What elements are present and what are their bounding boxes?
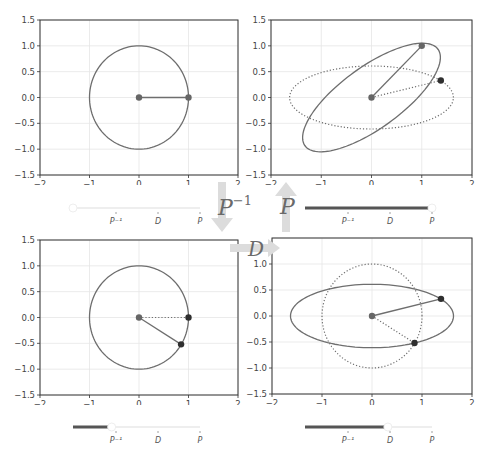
vector-line [372, 299, 441, 316]
data-point [411, 340, 417, 346]
y-tick-label: −1.0 [245, 144, 266, 154]
plot-top-left: −2−10121.51.00.50.0−0.5−1.0−1.5 [0, 0, 244, 185]
y-tick-label: −1.5 [14, 390, 35, 400]
data-point [185, 94, 191, 100]
y-tick-label: −1.0 [246, 363, 267, 373]
plot-svg: −2−10121.51.00.50.0−0.5−1.0−1.5 [0, 220, 244, 405]
slider-handle[interactable] [384, 423, 392, 431]
data-point [185, 314, 191, 320]
x-tick-label: 2 [235, 399, 240, 405]
x-tick-label: 1 [186, 179, 191, 185]
slider-stop-label: D [155, 436, 161, 445]
slider-stop-label: P [430, 436, 435, 445]
x-tick-label: −2 [34, 399, 47, 405]
x-tick-label: 0 [369, 398, 374, 405]
operator-d-label: D [248, 237, 264, 261]
y-tick-label: 0.0 [21, 313, 35, 323]
y-tick-label: 0.0 [21, 93, 35, 103]
slider-stop-label: P⁻¹ [110, 217, 122, 226]
x-tick-label: −1 [83, 179, 96, 185]
slider-stop-label: P [430, 217, 435, 226]
data-point [178, 341, 184, 347]
x-tick-label: 0 [369, 179, 374, 185]
plot-bottom-left: −2−10121.51.00.50.0−0.5−1.0−1.5 [0, 220, 244, 405]
data-point [419, 43, 425, 49]
y-tick-label: 1.5 [21, 15, 35, 25]
x-tick-label: 0 [136, 399, 141, 405]
y-tick-label: 0.0 [253, 311, 267, 321]
slider-stop-label: P [198, 217, 203, 226]
operator-p-label: P [280, 194, 295, 219]
x-tick-label: 0 [136, 179, 141, 185]
x-tick-label: 1 [419, 179, 424, 185]
slider-svg[interactable]: P⁻¹DP [60, 417, 220, 447]
y-tick-label: −0.5 [246, 337, 267, 347]
y-tick-label: 0.5 [21, 287, 35, 297]
y-tick-label: −0.5 [14, 118, 35, 128]
slider-stop-label: D [387, 436, 393, 445]
slider-bottom-left[interactable]: P⁻¹DP [60, 417, 220, 447]
slider-svg[interactable]: P⁻¹DP [292, 417, 452, 447]
slider-stop-label: D [155, 217, 161, 226]
y-tick-label: −1.5 [245, 170, 266, 180]
x-tick-label: −1 [315, 179, 328, 185]
y-tick-label: 1.5 [21, 235, 35, 245]
data-point [438, 296, 444, 302]
data-point [438, 77, 444, 83]
x-tick-label: 1 [419, 398, 424, 405]
y-tick-label: 1.0 [21, 41, 35, 51]
x-tick-label: −1 [316, 398, 329, 405]
operator-p: P [218, 195, 233, 220]
operator-p-inverse-label: P−1 [218, 193, 252, 220]
data-point [368, 94, 374, 100]
y-tick-label: 1.5 [252, 15, 266, 25]
slider-bottom-right[interactable]: P⁻¹DP [292, 417, 452, 447]
data-point [136, 94, 142, 100]
y-tick-label: 0.5 [21, 67, 35, 77]
slider-handle[interactable] [69, 204, 77, 212]
plot-svg: −2−10121.51.00.50.0−0.5−1.0−1.5 [244, 0, 488, 185]
y-tick-label: −1.5 [246, 389, 267, 399]
x-tick-label: −2 [266, 398, 279, 405]
x-tick-label: −2 [34, 179, 47, 185]
slider-stop-label: D [387, 217, 393, 226]
y-tick-label: −1.0 [14, 364, 35, 374]
data-point [136, 314, 142, 320]
y-tick-label: 0.5 [253, 285, 267, 295]
slider-svg[interactable]: P⁻¹DP [60, 198, 220, 228]
y-tick-label: −1.0 [14, 144, 35, 154]
slider-stop-label: P⁻¹ [342, 217, 354, 226]
x-tick-label: 2 [469, 398, 474, 405]
slider-svg[interactable]: P⁻¹DP [292, 198, 452, 228]
operator-d-text: D [248, 237, 264, 261]
y-tick-label: 0.0 [252, 93, 266, 103]
slider-handle[interactable] [108, 423, 116, 431]
plot-svg: −2−10121.51.00.50.0−0.5−1.0−1.5 [0, 0, 244, 185]
operator-superscript: −1 [233, 193, 252, 208]
y-tick-label: −1.5 [14, 170, 35, 180]
slider-stop-label: P⁻¹ [110, 436, 122, 445]
plot-top-right: −2−10121.51.00.50.0−0.5−1.0−1.5 [244, 0, 488, 185]
y-tick-label: 1.0 [21, 261, 35, 271]
slider-handle[interactable] [428, 204, 436, 212]
vector-line [139, 318, 181, 345]
y-tick-label: −0.5 [14, 338, 35, 348]
data-point [369, 313, 375, 319]
slider-top-right[interactable]: P⁻¹DP [292, 198, 452, 228]
y-tick-label: 1.0 [252, 41, 266, 51]
x-tick-label: 2 [469, 179, 474, 185]
slider-stop-label: P⁻¹ [342, 436, 354, 445]
previous-vector-line [372, 316, 415, 343]
slider-stop-label: P [198, 436, 203, 445]
y-tick-label: −0.5 [245, 118, 266, 128]
operator-p-text: P [280, 194, 295, 219]
x-tick-label: 2 [235, 179, 240, 185]
x-tick-label: −1 [83, 399, 96, 405]
slider-top-left[interactable]: P⁻¹DP [60, 198, 220, 228]
x-tick-label: 1 [186, 399, 191, 405]
y-tick-label: 0.5 [252, 67, 266, 77]
